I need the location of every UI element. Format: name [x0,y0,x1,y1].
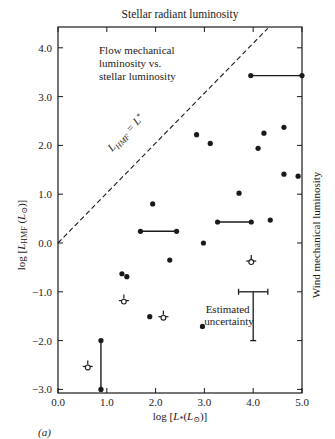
x-tick-label: 3.0 [198,396,212,408]
reference-line-label: LHMF = L* [104,112,148,157]
data-point [261,131,266,136]
data-point [268,217,273,222]
data-point [167,257,172,262]
upper-limit-point [158,311,168,320]
filled-points [119,125,300,329]
data-point [150,201,155,206]
data-point [255,146,260,151]
annotation-title: Flow mechanical luminosity vs. stellar l… [99,44,177,82]
data-point [295,174,300,179]
range-endpoint [98,338,103,343]
data-point [194,132,199,137]
uncertainty-label: Estimated uncertainty [204,303,254,327]
range-endpoint [299,73,304,78]
x-axis-label: log [L*(L⊙)] [153,410,207,424]
range-endpoint [138,229,143,234]
x-tick-label: 0.0 [51,396,65,408]
y-axis-label: log [LHMF (L⊙)] [15,200,29,271]
y-tick-label: 3.0 [38,91,52,103]
range-endpoint [98,387,103,392]
data-point [281,125,286,130]
x-tick-labels: 0.01.02.03.04.05.0 [51,396,309,408]
range-endpoint [174,229,179,234]
y-tick-label: −3.0 [32,383,52,395]
x-tick-label: 2.0 [149,396,163,408]
x-tick-label: 5.0 [295,396,309,408]
x-tick-label: 4.0 [246,396,260,408]
range-endpoint [248,73,253,78]
y-tick-label: 4.0 [38,42,52,54]
scatter-chart: Stellar radiant luminosity 0.01.02.03.04… [0,0,335,439]
data-point [236,191,241,196]
x-tick-label: 1.0 [100,396,114,408]
y-tick-label: −1.0 [32,286,52,298]
y-tick-label: 1.0 [38,188,52,200]
data-point [124,274,129,279]
axis-ticks [58,27,302,393]
top-axis-title: Stellar radiant luminosity [122,8,239,21]
data-point [201,240,206,245]
panel-label: (a) [38,426,51,439]
range-endpoint [215,219,220,224]
y-tick-label: −2.0 [32,335,52,347]
y-tick-label: 0.0 [38,237,52,249]
data-point [119,271,124,276]
data-point [281,172,286,177]
upper-limit-point [246,255,256,264]
plot-frame [58,27,302,393]
upper-limit-point [83,360,93,369]
range-endpoint [249,219,254,224]
upper-limit-point [119,295,129,304]
data-point [208,141,213,146]
right-axis-label: Wind mechanical luminosity [310,171,322,298]
y-tick-labels: −3.0−2.0−1.00.01.02.03.04.0 [32,42,52,396]
y-tick-label: 2.0 [38,139,52,151]
data-point [147,314,152,319]
